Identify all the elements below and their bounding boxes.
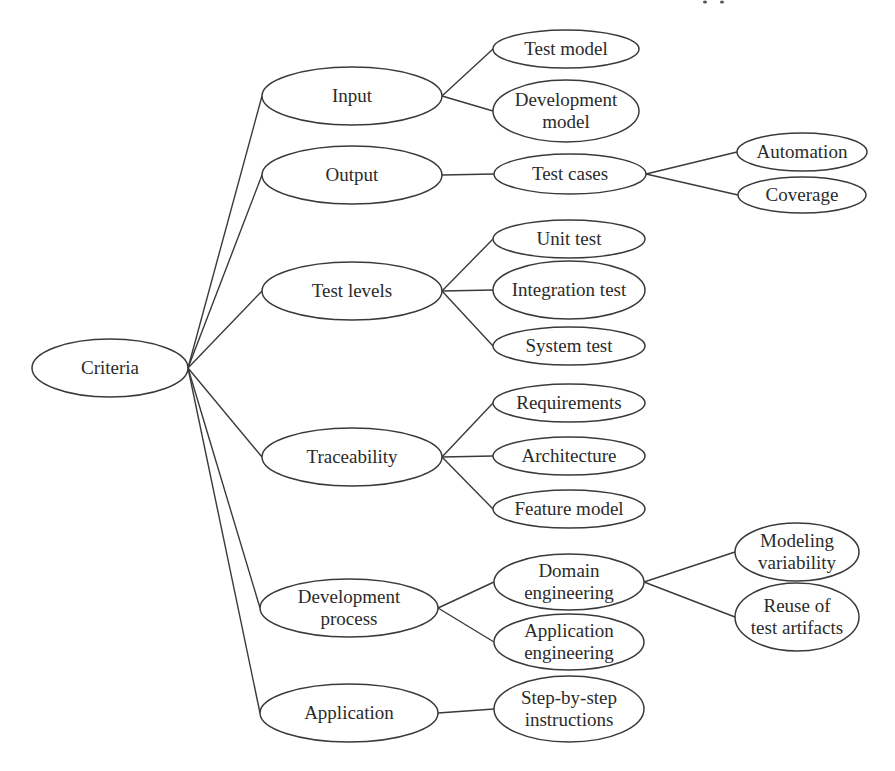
node-label: variability bbox=[758, 552, 837, 573]
node-unit-test: Unit test bbox=[493, 220, 645, 258]
node-label: Integration test bbox=[512, 279, 627, 300]
node-coverage: Coverage bbox=[738, 177, 866, 213]
node-label: Coverage bbox=[766, 184, 839, 205]
node-label: Feature model bbox=[514, 498, 623, 519]
node-label: Test levels bbox=[312, 280, 392, 301]
node-label: Domain bbox=[538, 560, 600, 581]
node-step-by-step-instructions: Step-by-stepinstructions bbox=[494, 676, 644, 742]
node-integration-test: Integration test bbox=[493, 261, 645, 319]
edge-development-process-to-application-engineering bbox=[438, 608, 494, 642]
node-test-cases: Test cases bbox=[494, 154, 646, 194]
node-application: Application bbox=[260, 684, 438, 742]
node-label: Output bbox=[326, 164, 380, 185]
edge-test-levels-to-unit-test bbox=[442, 239, 493, 291]
node-label: test artifacts bbox=[751, 617, 843, 638]
node-label: Traceability bbox=[306, 446, 398, 467]
node-label: Requirements bbox=[516, 392, 622, 413]
edge-domain-engineering-to-reuse-of-test-artifacts bbox=[644, 582, 735, 617]
node-requirements: Requirements bbox=[493, 384, 645, 422]
node-label: Reuse of bbox=[763, 595, 831, 616]
node-label: Application bbox=[524, 620, 614, 641]
edge-test-cases-to-coverage bbox=[646, 174, 738, 195]
node-domain-engineering: Domainengineering bbox=[494, 554, 644, 610]
node-label: Criteria bbox=[81, 357, 140, 378]
node-label: Modeling bbox=[760, 530, 834, 551]
node-architecture: Architecture bbox=[493, 437, 645, 475]
node-label: engineering bbox=[524, 642, 614, 663]
node-label: engineering bbox=[524, 582, 614, 603]
edge-traceability-to-feature-model bbox=[442, 457, 493, 509]
node-test-levels: Test levels bbox=[262, 262, 442, 320]
edge-test-levels-to-system-test bbox=[442, 291, 493, 346]
node-label: Automation bbox=[757, 141, 848, 162]
clipped-header-fragment bbox=[703, 1, 724, 4]
node-label: Architecture bbox=[522, 445, 617, 466]
edge-traceability-to-requirements bbox=[442, 403, 493, 457]
edge-criteria-to-output bbox=[188, 175, 262, 368]
node-label: process bbox=[321, 608, 378, 629]
edge-input-to-development-model bbox=[442, 96, 493, 111]
node-reuse-of-test-artifacts: Reuse oftest artifacts bbox=[735, 583, 859, 651]
node-development-model: Developmentmodel bbox=[493, 80, 639, 142]
edge-traceability-to-architecture bbox=[442, 456, 493, 457]
criteria-mind-map: CriteriaInputTest modelDevelopmentmodelO… bbox=[0, 0, 895, 771]
nodes-layer: CriteriaInputTest modelDevelopmentmodelO… bbox=[32, 30, 867, 742]
node-label: Step-by-step bbox=[521, 687, 617, 708]
edge-criteria-to-traceability bbox=[188, 368, 262, 457]
node-system-test: System test bbox=[493, 327, 645, 365]
edge-criteria-to-development-process bbox=[188, 368, 260, 608]
node-label: Application bbox=[304, 702, 394, 723]
node-label: Test model bbox=[524, 38, 608, 59]
node-development-process: Developmentprocess bbox=[260, 579, 438, 637]
node-label: model bbox=[542, 111, 590, 132]
node-label: Development bbox=[298, 586, 401, 607]
node-input: Input bbox=[262, 67, 442, 125]
edge-application-to-step-by-step-instructions bbox=[438, 709, 494, 713]
edge-test-levels-to-integration-test bbox=[442, 290, 493, 291]
node-application-engineering: Applicationengineering bbox=[494, 614, 644, 670]
edge-test-cases-to-automation bbox=[646, 152, 737, 174]
node-label: instructions bbox=[525, 709, 614, 730]
edge-domain-engineering-to-modeling-variability bbox=[644, 552, 735, 582]
node-label: Input bbox=[332, 85, 373, 106]
edge-criteria-to-input bbox=[188, 96, 262, 368]
node-test-model: Test model bbox=[493, 30, 639, 68]
node-feature-model: Feature model bbox=[493, 490, 645, 528]
node-label: Test cases bbox=[532, 163, 608, 184]
node-traceability: Traceability bbox=[262, 428, 442, 486]
node-criteria: Criteria bbox=[32, 339, 188, 397]
node-automation: Automation bbox=[737, 133, 867, 171]
edge-development-process-to-domain-engineering bbox=[438, 582, 494, 608]
node-label: Development bbox=[515, 89, 618, 110]
node-label: System test bbox=[525, 335, 613, 356]
edge-criteria-to-application bbox=[188, 368, 260, 713]
edge-input-to-test-model bbox=[442, 49, 493, 96]
edge-output-to-test-cases bbox=[442, 174, 494, 175]
node-label: Unit test bbox=[537, 228, 603, 249]
node-modeling-variability: Modelingvariability bbox=[735, 523, 859, 581]
node-output: Output bbox=[262, 146, 442, 204]
